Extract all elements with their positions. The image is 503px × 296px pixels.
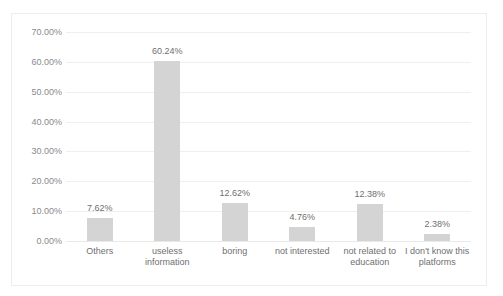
x-axis-category-label: not related to education — [336, 246, 404, 268]
bar[interactable] — [357, 204, 383, 241]
y-axis-tick-label: 40.00% — [31, 117, 62, 126]
y-axis-tick-label: 70.00% — [31, 28, 62, 37]
bar-slot: 12.38% — [336, 32, 404, 241]
bar-slot: 60.24% — [134, 32, 202, 241]
bar-chart: 70.00%60.00%50.00%40.00%30.00%20.00%10.0… — [0, 0, 503, 296]
bar-slot: 12.62% — [201, 32, 269, 241]
x-axis-category-label: not interested — [269, 246, 337, 268]
bar-slot: 4.76% — [269, 32, 337, 241]
y-axis-tick-label: 20.00% — [31, 177, 62, 186]
cropped-title-text — [0, 0, 503, 9]
bar-value-label: 12.38% — [354, 190, 385, 199]
x-axis-category-label: boring — [201, 246, 269, 268]
y-axis-tick-label: 60.00% — [31, 57, 62, 66]
bar-value-label: 12.62% — [219, 189, 250, 198]
bar[interactable] — [424, 234, 450, 241]
x-axis-category-labels: Othersuseless informationboringnot inter… — [66, 246, 471, 268]
gridline — [66, 241, 471, 242]
x-axis-category-label: Others — [66, 246, 134, 268]
bar-value-label: 60.24% — [152, 47, 183, 56]
y-axis-tick-label: 0.00% — [36, 237, 62, 246]
bar[interactable] — [289, 227, 315, 241]
bar-slot: 2.38% — [404, 32, 472, 241]
plot-area: 7.62%60.24%12.62%4.76%12.38%2.38% — [66, 32, 471, 241]
x-axis-category-label: I don't know this platforms — [404, 246, 472, 268]
bar-slot: 7.62% — [66, 32, 134, 241]
y-axis-tick-label: 50.00% — [31, 87, 62, 96]
y-axis-tick-labels: 70.00%60.00%50.00%40.00%30.00%20.00%10.0… — [14, 32, 62, 241]
bar-value-label: 7.62% — [87, 204, 113, 213]
bar-series: 7.62%60.24%12.62%4.76%12.38%2.38% — [66, 32, 471, 241]
cropped-title-label — [0, 0, 503, 3]
y-axis-tick-label: 10.00% — [31, 207, 62, 216]
x-axis-category-label: useless information — [134, 246, 202, 268]
bar[interactable] — [222, 203, 248, 241]
bar-value-label: 2.38% — [424, 220, 450, 229]
y-axis-tick-label: 30.00% — [31, 147, 62, 156]
bar[interactable] — [154, 61, 180, 241]
bar[interactable] — [87, 218, 113, 241]
bar-value-label: 4.76% — [289, 213, 315, 222]
